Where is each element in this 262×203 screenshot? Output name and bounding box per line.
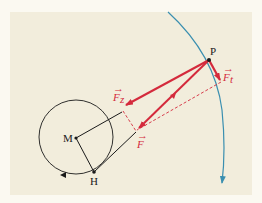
vector-Fz: [126, 60, 209, 105]
label-M: M: [63, 132, 73, 144]
line-M-Fz-base: [76, 112, 122, 138]
svg-text:→: →: [223, 62, 234, 74]
label-F: F →: [136, 129, 148, 150]
line-H-F-base: [94, 132, 136, 172]
dashed-Fz-to-F: [123, 111, 136, 131]
force-diagram: P M H F t → F z → F →: [0, 0, 262, 203]
label-H: H: [90, 175, 98, 187]
label-P: P: [210, 45, 216, 57]
svg-text:t: t: [230, 73, 234, 85]
trajectory-arc: [168, 12, 224, 183]
label-Ft: F t →: [222, 62, 234, 85]
point-H: [92, 170, 96, 174]
point-P: [207, 58, 211, 62]
svg-text:→: →: [113, 82, 124, 94]
svg-text:→: →: [137, 129, 148, 141]
svg-text:z: z: [119, 93, 125, 105]
label-Fz: F z →: [112, 82, 125, 105]
line-M-H: [76, 138, 94, 172]
point-M: [74, 136, 77, 139]
circle-direction-arrow-icon: [60, 172, 66, 178]
